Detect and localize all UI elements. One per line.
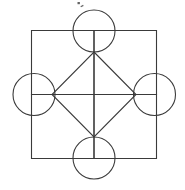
bottom-left-square xyxy=(32,95,95,159)
bottom-right-square xyxy=(94,95,157,159)
top-speck-2-icon xyxy=(80,5,83,8)
figure-canvas: Geometric figure: four squares, four cir… xyxy=(0,0,185,190)
top-speck-1-icon xyxy=(78,2,80,4)
top-right-square xyxy=(94,31,157,95)
scan-artifacts-group xyxy=(78,2,84,7)
geometric-figure-svg xyxy=(0,0,185,190)
top-left-square xyxy=(32,31,95,95)
square-grid-group xyxy=(32,31,157,159)
